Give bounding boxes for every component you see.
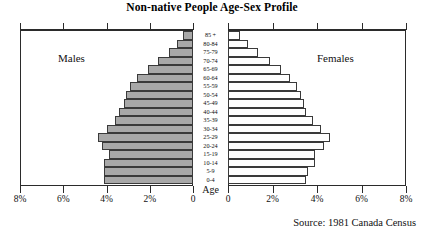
- tick-mark-right-4: [317, 186, 318, 193]
- age-label: 55-59: [193, 82, 228, 91]
- bar-female-8084: [228, 40, 248, 49]
- tick-mark-right-0: [228, 186, 229, 193]
- age-label: 75-79: [193, 48, 228, 57]
- bar-female-7074: [228, 57, 270, 66]
- age-label: 85 +: [193, 31, 228, 40]
- age-label: 35-39: [193, 116, 228, 125]
- age-label: 50-54: [193, 91, 228, 100]
- axis-label-left-6pct: 6%: [50, 194, 76, 204]
- age-label: 0-4: [193, 176, 228, 185]
- bar-female-4044: [228, 108, 306, 117]
- population-pyramid-chart: Non-native People Age-Sex Profile 85 +80…: [0, 0, 424, 237]
- bar-female-5054: [228, 91, 301, 100]
- age-label: 25-29: [193, 133, 228, 142]
- bar-female-2529: [228, 133, 330, 142]
- bar-female-6569: [228, 65, 281, 74]
- bar-male-4549: [124, 99, 193, 108]
- age-label: 10-14: [193, 159, 228, 168]
- bar-female-1014: [228, 159, 315, 168]
- axis-label-right-8pct: 8%: [393, 194, 419, 204]
- bar-female-5559: [228, 82, 297, 91]
- source-note: Source: 1981 Canada Census: [293, 217, 416, 228]
- bar-male-5559: [130, 82, 193, 91]
- tick-mark-right-2: [273, 23, 274, 30]
- bar-male-3539: [115, 116, 193, 125]
- tick-mark-left-2: [150, 23, 151, 30]
- age-label: 40-44: [193, 108, 228, 117]
- bar-female-85+: [228, 31, 240, 40]
- bar-female-7579: [228, 48, 258, 57]
- bar-male-2529: [98, 133, 193, 142]
- bar-male-04: [104, 176, 193, 185]
- bar-female-2024: [228, 142, 324, 151]
- tick-mark-right-6: [362, 23, 363, 30]
- age-label: 15-19: [193, 150, 228, 159]
- chart-title: Non-native People Age-Sex Profile: [0, 1, 424, 13]
- tick-mark-left-8: [20, 23, 21, 30]
- bar-male-2024: [102, 142, 193, 151]
- bar-male-59: [104, 167, 193, 176]
- axis-label-left-8pct: 8%: [7, 194, 33, 204]
- tick-mark-left-4: [107, 186, 108, 193]
- bar-female-6064: [228, 74, 290, 83]
- tick-mark-left-8: [20, 186, 21, 193]
- axis-label-right-2pct: 2%: [260, 194, 286, 204]
- tick-mark-right-8: [406, 186, 407, 193]
- females-label: Females: [317, 52, 354, 64]
- axis-label-left-2pct: 2%: [137, 194, 163, 204]
- tick-mark-left-6: [63, 186, 64, 193]
- bar-male-4044: [119, 108, 193, 117]
- age-category-labels: 85 +80-8475-7970-7465-6960-6455-5950-544…: [193, 31, 228, 184]
- tick-mark-left-0: [193, 23, 194, 30]
- bar-male-7579: [169, 48, 193, 57]
- age-label: 80-84: [193, 40, 228, 49]
- bar-female-59: [228, 167, 308, 176]
- tick-mark-left-6: [63, 23, 64, 30]
- tick-mark-right-4: [317, 23, 318, 30]
- bar-male-6064: [137, 74, 193, 83]
- age-label: 70-74: [193, 57, 228, 66]
- bar-female-4549: [228, 99, 304, 108]
- age-label: 20-24: [193, 142, 228, 151]
- axis-label-right-6pct: 6%: [349, 194, 375, 204]
- axis-label-right-0: 0: [215, 194, 241, 204]
- males-label: Males: [58, 52, 85, 64]
- axis-label-left-4pct: 4%: [94, 194, 120, 204]
- age-label: 65-69: [193, 65, 228, 74]
- tick-mark-left-4: [107, 23, 108, 30]
- tick-mark-right-0: [228, 23, 229, 30]
- bar-male-5054: [126, 91, 193, 100]
- tick-mark-left-2: [150, 186, 151, 193]
- bar-male-1519: [109, 150, 193, 159]
- age-label: 60-64: [193, 74, 228, 83]
- bar-male-7074: [158, 57, 193, 66]
- axis-label-left-0: 0: [180, 194, 206, 204]
- bar-female-3034: [228, 125, 321, 134]
- tick-mark-right-8: [406, 23, 407, 30]
- tick-mark-right-6: [362, 186, 363, 193]
- bar-male-3034: [107, 125, 194, 134]
- bar-male-8084: [177, 40, 193, 49]
- age-label: 5-9: [193, 167, 228, 176]
- axis-label-right-4pct: 4%: [304, 194, 330, 204]
- bar-male-1014: [104, 159, 193, 168]
- bar-female-04: [228, 176, 306, 185]
- bar-female-3539: [228, 116, 313, 125]
- bar-male-6569: [148, 65, 193, 74]
- age-label: 30-34: [193, 125, 228, 134]
- tick-mark-right-2: [273, 186, 274, 193]
- bar-male-85+: [183, 31, 193, 40]
- bar-female-1519: [228, 150, 315, 159]
- age-label: 45-49: [193, 99, 228, 108]
